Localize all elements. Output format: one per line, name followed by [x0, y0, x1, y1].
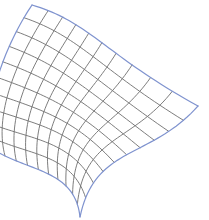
grid-line-v — [0, 93, 114, 162]
grid-line-v — [16, 32, 168, 132]
grid-line-v — [24, 18, 183, 121]
grid-lines — [0, 11, 183, 205]
edge-bottom — [0, 150, 80, 217]
surface-mesh-figure — [0, 0, 209, 220]
grid-line-v — [0, 78, 127, 155]
grid-line-u — [77, 91, 172, 204]
grid-line-u — [73, 78, 151, 195]
grid-line-u — [57, 53, 116, 179]
